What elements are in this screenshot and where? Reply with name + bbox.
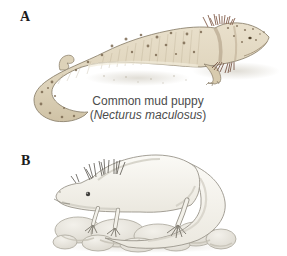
panel-a-caption: Common mud puppy (Necturus maculosus) [50,95,246,122]
scientific-name-line: (Necturus maculosus) [50,109,246,123]
mud-puppy-shadow-2 [86,70,190,86]
figure-page: A [0,0,287,256]
mud-puppy-eye [248,37,251,40]
mud-puppy-gills-upper [203,14,235,27]
axolotl-eye [86,192,90,196]
mud-puppy-nostril [263,31,264,32]
scientific-name: Necturus maculosus [94,108,203,122]
paren-close: ) [202,108,206,122]
common-name: Common mud puppy [50,95,246,109]
axolotl-illustration [48,150,240,254]
axolotl-nostril [59,191,60,192]
axolotl-eye-highlight [87,193,88,194]
panel-b-label: B [21,153,31,169]
